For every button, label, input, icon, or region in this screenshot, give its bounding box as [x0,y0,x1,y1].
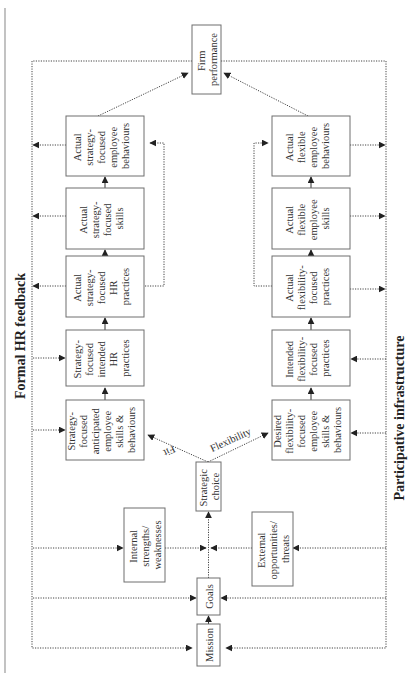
edge-actualhr-to-bhv-bracket [145,143,164,286]
edge-actualflex-to-bhv-bracket [254,143,272,286]
node-strategy-actual-hr: Actual strategy- focused HR practices [66,256,144,317]
svg-text:Strategy- focused: Strategy- focused intended HR practices [72,337,131,378]
svg-text:Internal strengths/: Internal strengths/ weaknesses [128,521,163,570]
formal-hr-feedback-label: Formal HR feedback [13,273,28,399]
svg-text:Strategy- focused: Strategy- focused anticipated employee s… [66,406,137,455]
svg-text:Mission: Mission [204,627,215,662]
svg-text:Actual strategy- f: Actual strategy- focused HR practices [72,267,131,306]
edge-fit [148,435,208,462]
node-flex-behaviours: Actual flexible employee behaviours [272,116,350,176]
svg-text:Desired flexibility-: Desired flexibility- focused employee sk… [272,406,343,454]
node-strategy-anticipated: Strategy- focused anticipated employee s… [66,400,144,460]
node-mission: Mission [197,624,220,666]
node-flex-desired: Desired flexibility- focused employee sk… [272,400,350,460]
fit-label: Fit [162,444,177,459]
node-external: External opportunities/ threats [252,512,293,586]
node-strategy-behaviours: Actual strategy- focused employee behavi… [66,116,144,176]
node-strategic-choice: Strategic choice [196,462,221,511]
node-flex-actual-practices: Actual flexibility- focused practices [272,256,350,317]
edge-flex-bhv-to-performance [224,73,308,116]
svg-text:Intended flexibility-: Intended flexibility- focused practices [284,334,331,382]
svg-text:Goals: Goals [204,584,215,609]
node-flex-intended-practices: Intended flexibility- focused practices [272,330,350,386]
edge-strategy-bhv-to-performance [98,73,188,116]
node-flex-skills: Actual flexible employee skills [272,188,350,249]
node-firm-performance: Firm performance [192,25,221,94]
flexibility-label: Flexibility [208,425,253,454]
hr-strategy-diagram: Fit Flexibility Firm performance Actual … [0,0,410,683]
node-goals: Goals [197,578,220,615]
node-internal: Internal strengths/ weaknesses [124,508,165,582]
participative-infrastructure-label: Participative infrastructure [392,336,407,501]
node-strategy-intended-hr: Strategy- focused intended HR practices [66,330,144,386]
node-strategy-skills: Actual strategy- focused skills [66,188,144,249]
